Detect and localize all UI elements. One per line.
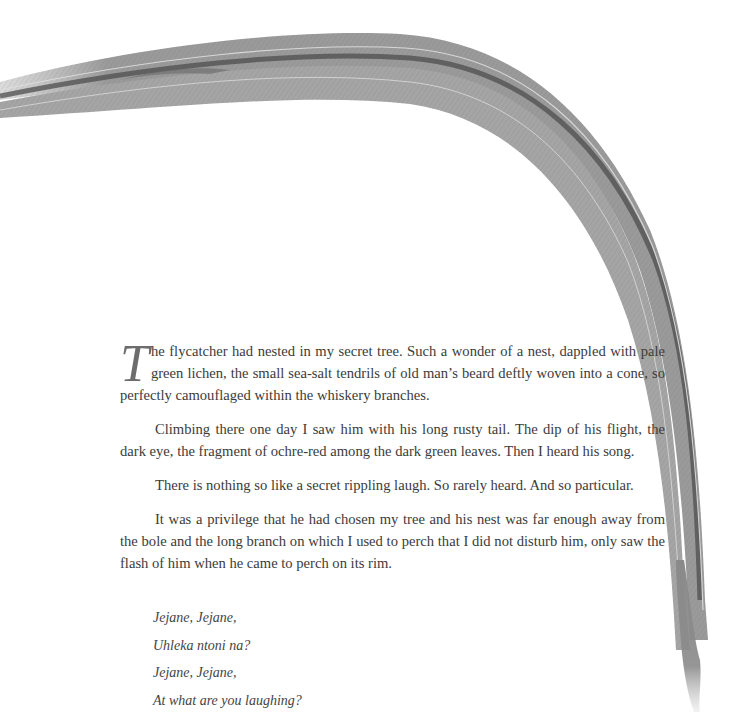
poem: Jejane, Jejane, Uhleka ntoni na? Jejane,…: [153, 604, 302, 714]
poem-line-1: Jejane, Jejane,: [153, 604, 302, 632]
drop-cap: T: [120, 342, 149, 384]
paragraph-3: There is nothing so like a secret rippli…: [120, 474, 665, 496]
paragraph-4: It was a privilege that he had chosen my…: [120, 508, 665, 574]
poem-line-2: Uhleka ntoni na?: [153, 632, 302, 660]
paragraph-2: Climbing there one day I saw him with hi…: [120, 418, 665, 462]
feather-tip: [676, 560, 701, 712]
poem-line-3: Jejane, Jejane,: [153, 659, 302, 687]
poem-line-4: At what are you laughing?: [153, 687, 302, 714]
story-text: The flycatcher had nested in my secret t…: [120, 340, 665, 586]
paragraph-1: The flycatcher had nested in my secret t…: [120, 340, 665, 406]
